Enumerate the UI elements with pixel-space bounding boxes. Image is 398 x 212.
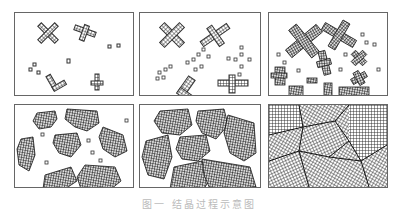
figure-caption: 图一 结晶过程示意图 xyxy=(0,196,398,211)
panel-early-growth xyxy=(139,12,261,96)
panel-impingement xyxy=(139,104,261,188)
panel-nucleation xyxy=(14,12,134,96)
panel-grain-growth xyxy=(14,104,134,188)
panel-complete-polycrystal xyxy=(268,104,388,188)
panel-dendritic-growth xyxy=(268,12,388,96)
